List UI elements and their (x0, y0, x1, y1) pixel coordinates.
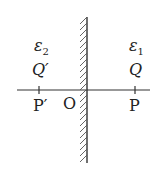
point-p-prime-label: P′ (33, 98, 47, 114)
origin-label: O (63, 96, 76, 112)
diagram-canvas (0, 0, 164, 169)
epsilon-2-label: ε2 (34, 38, 49, 57)
point-p-label: P (129, 98, 140, 114)
image-charge-label: Q′ (32, 62, 49, 78)
epsilon-1-label: ε1 (129, 38, 144, 57)
charge-label: Q (129, 62, 142, 78)
